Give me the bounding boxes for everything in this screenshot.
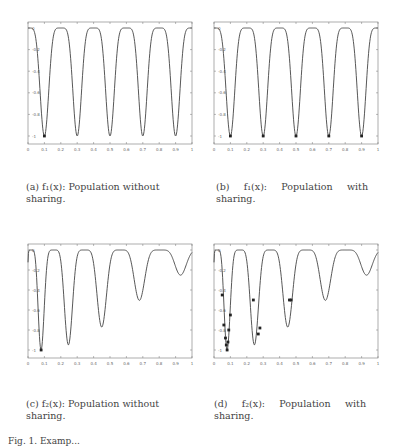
x-tick-label: 0.2	[58, 147, 65, 152]
x-tick-label: 0.3	[74, 361, 81, 366]
x-tick-label: 0.2	[244, 361, 251, 366]
caption-a: (a) f₁(x): Population without sharing.	[26, 181, 186, 205]
population-point	[43, 135, 46, 138]
x-tick-label: 0.4	[276, 147, 283, 152]
population-point	[227, 341, 230, 344]
x-tick-label: 0.8	[156, 361, 163, 366]
plot-a: 00.10.20.30.40.50.60.70.80.910-0.2-0.4-0…	[22, 18, 194, 158]
x-tick-label: 0.9	[358, 361, 365, 366]
y-tick-label: -0.8	[218, 112, 226, 117]
y-tick-label: -1	[32, 134, 36, 139]
x-tick-label: 0	[213, 361, 216, 366]
x-tick-label: 0	[27, 361, 30, 366]
x-tick-label: 0.6	[309, 361, 316, 366]
x-tick-label: 0.1	[41, 147, 48, 152]
population-point	[360, 135, 363, 138]
y-tick-label: -0.2	[32, 47, 40, 52]
population-point	[227, 329, 230, 332]
population-point	[224, 337, 227, 340]
x-tick-label: 1	[191, 147, 194, 152]
plot-c: 00.10.20.30.40.50.60.70.80.910-0.2-0.4-0…	[22, 240, 194, 372]
x-tick-label: 1	[191, 361, 194, 366]
y-tick-label: -0.4	[218, 288, 226, 293]
x-tick-label: 0.4	[90, 147, 97, 152]
population-point	[327, 135, 330, 138]
y-tick-label: -0.6	[32, 308, 40, 313]
y-tick-label: -1	[32, 348, 36, 353]
population-point	[262, 135, 265, 138]
population-point	[229, 314, 232, 317]
y-tick-label: -1	[218, 348, 222, 353]
y-tick-label: -0.4	[32, 288, 40, 293]
x-tick-label: 0.7	[140, 147, 147, 152]
x-tick-label: 0.3	[260, 147, 267, 152]
subfigure-b: 00.10.20.30.40.50.60.70.80.910-0.2-0.4-0…	[208, 18, 380, 158]
function-curve	[28, 28, 192, 136]
function-curve	[214, 250, 378, 350]
y-tick-label: -0.6	[218, 90, 226, 95]
x-tick-label: 0.7	[326, 361, 333, 366]
x-tick-label: 0.6	[123, 147, 130, 152]
plot-b: 00.10.20.30.40.50.60.70.80.910-0.2-0.4-0…	[208, 18, 380, 158]
x-tick-label: 0.3	[74, 147, 81, 152]
x-tick-label: 0.9	[358, 147, 365, 152]
x-tick-label: 0.9	[172, 361, 179, 366]
x-tick-label: 0	[27, 147, 30, 152]
x-tick-label: 0.8	[156, 147, 163, 152]
x-tick-label: 0.8	[342, 361, 349, 366]
x-tick-label: 0.1	[227, 361, 234, 366]
population-point	[290, 299, 293, 302]
function-curve	[28, 250, 192, 350]
x-tick-label: 0	[213, 147, 216, 152]
x-tick-label: 0.5	[107, 361, 114, 366]
population-point	[229, 135, 232, 138]
subfigure-c: 00.10.20.30.40.50.60.70.80.910-0.2-0.4-0…	[22, 240, 194, 372]
population-point	[225, 344, 228, 347]
y-tick-label: -0.8	[32, 112, 40, 117]
x-tick-label: 0.3	[260, 361, 267, 366]
population-point	[222, 324, 225, 327]
population-point	[40, 349, 43, 352]
x-tick-label: 0.1	[227, 147, 234, 152]
subfigure-a: 00.10.20.30.40.50.60.70.80.910-0.2-0.4-0…	[22, 18, 194, 158]
population-point	[226, 349, 229, 352]
x-tick-label: 0.5	[293, 361, 300, 366]
x-tick-label: 1	[377, 147, 380, 152]
x-tick-label: 0.2	[58, 361, 65, 366]
population-point	[259, 327, 262, 330]
figure-caption: Fig. 1. Examp...	[8, 436, 80, 446]
function-curve	[214, 28, 378, 136]
x-tick-label: 0.2	[244, 147, 251, 152]
x-tick-label: 0.6	[123, 361, 130, 366]
x-tick-label: 0.7	[326, 147, 333, 152]
subfigure-d: 00.10.20.30.40.50.60.70.80.910-0.2-0.4-0…	[208, 240, 380, 372]
y-tick-label: -1	[218, 134, 222, 139]
axes-frame	[214, 244, 378, 358]
x-tick-label: 0.9	[172, 147, 179, 152]
x-tick-label: 0.1	[41, 361, 48, 366]
x-tick-label: 0.5	[107, 147, 114, 152]
y-tick-label: -0.6	[32, 90, 40, 95]
axes-frame	[28, 244, 192, 358]
x-tick-label: 0.4	[276, 361, 283, 366]
x-tick-label: 0.8	[342, 147, 349, 152]
population-point	[257, 333, 260, 336]
plot-d: 00.10.20.30.40.50.60.70.80.910-0.2-0.4-0…	[208, 240, 380, 372]
caption-c: (c) f₂(x): Population without sharing.	[26, 398, 186, 422]
caption-d: (d) f₂(x): Population with sharing.	[214, 398, 366, 422]
population-point	[252, 299, 255, 302]
x-tick-label: 0.4	[90, 361, 97, 366]
population-point	[295, 135, 298, 138]
x-tick-label: 0.7	[140, 361, 147, 366]
y-tick-label: -0.2	[218, 47, 226, 52]
x-tick-label: 0.6	[309, 147, 316, 152]
caption-b: (b) f₁(x): Population with sharing.	[216, 181, 368, 205]
y-tick-label: -0.6	[218, 308, 226, 313]
x-tick-label: 1	[377, 361, 380, 366]
population-point	[221, 294, 224, 297]
x-tick-label: 0.5	[293, 147, 300, 152]
